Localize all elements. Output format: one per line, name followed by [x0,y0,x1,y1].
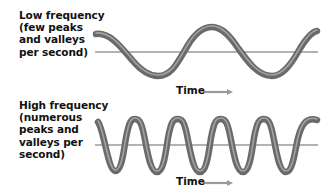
low-time-axis-label: Time [176,84,205,96]
time-arrow-head-icon [227,89,233,95]
low-frequency-wave-group [95,26,318,95]
high-frequency-wave-group [95,118,318,186]
high-time-axis-label: Time [176,175,205,187]
time-arrow-head-icon [227,180,233,186]
wave-diagram [0,0,336,196]
